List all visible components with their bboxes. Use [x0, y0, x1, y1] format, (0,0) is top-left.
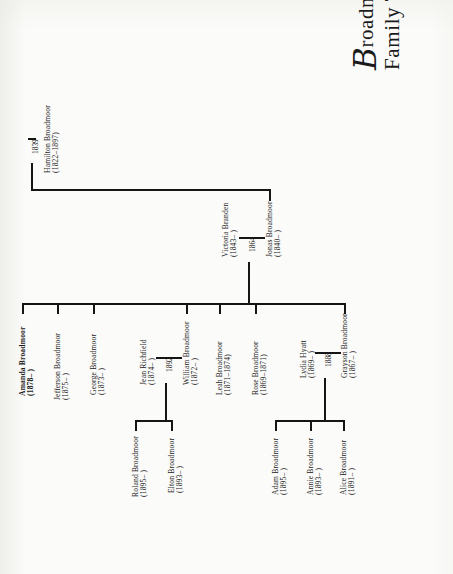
marriage-year-jonas: 1864	[248, 237, 257, 252]
person-dates: (1891– )	[348, 440, 356, 495]
child-tick-adam	[275, 420, 277, 431]
child-bar-hamilton	[31, 189, 271, 191]
person-william-broadmoor: William Broadmoor (1872– )	[183, 321, 198, 385]
descent-line-grayson	[324, 378, 326, 421]
person-jefferson-broadmoor: Jefferson Broadmoor (1875– )	[54, 333, 69, 400]
child-tick-elton	[171, 420, 173, 431]
person-george-broadmoor: George Broadmoor (1873– )	[90, 334, 105, 395]
person-dates: (1895– )	[140, 436, 148, 497]
sibling-bar-william-children	[135, 420, 172, 422]
person-dates: (1878– )	[27, 326, 35, 396]
person-dates: (1867– )	[349, 313, 357, 378]
descent-line-jonas	[248, 262, 250, 304]
person-dates: (1873– )	[98, 334, 106, 395]
person-dates: (1872– )	[191, 321, 199, 385]
marriage-year-grayson: 1888	[324, 352, 333, 367]
person-dates: (1893– )	[176, 438, 184, 493]
title-ornate-initial: B	[347, 47, 383, 70]
child-tick-william	[186, 303, 188, 314]
person-annie-broadmoor: Annie Broadmoor (1893– )	[307, 438, 322, 495]
page-title: Broadmoor Family Tree	[352, 0, 405, 70]
child-tick-leah	[219, 303, 221, 314]
child-tick-jefferson	[57, 303, 59, 314]
person-dates: (1875– )	[62, 333, 70, 400]
descent-line-hamilton	[31, 163, 33, 190]
child-tick-roland	[135, 420, 137, 431]
child-tick-jonas	[269, 189, 271, 201]
sibling-bar-generation-2	[22, 303, 345, 305]
person-dates: (1895– )	[280, 438, 288, 495]
marriage-year-hamilton: 1839	[31, 139, 40, 154]
marriage-year-william: 1892	[165, 357, 174, 372]
title-line-1: roadmoor	[354, 0, 378, 48]
person-leah-broadmoor: Leah Broadmoor (1871–1874)	[216, 341, 231, 395]
child-tick-alice	[343, 420, 345, 431]
person-dates: (1869–1871)	[260, 341, 268, 395]
person-alice-broadmoor: Alice Broadmoor (1891– )	[340, 440, 355, 495]
family-tree-page: Broadmoor Family Tree Hamilton Broadmoor…	[0, 0, 453, 574]
child-tick-annie	[310, 420, 312, 431]
person-dates: (1869– )	[308, 340, 316, 378]
child-tick-george	[93, 303, 95, 314]
person-dates: (1843– )	[230, 203, 238, 257]
person-hamilton-broadmoor: Hamilton Broadmoor (1822–1897)	[44, 105, 59, 173]
person-adam-broadmoor: Adam Broadmoor (1895– )	[272, 438, 287, 495]
person-grayson-broadmoor: Grayson Broadmoor (1867– )	[341, 313, 356, 378]
person-jonas-broadmoor: Jonas Broadmoor (1840– )	[266, 201, 281, 257]
person-dates: (1822–1897)	[52, 105, 60, 173]
person-victoria-branden: Victoria Branden (1843– )	[222, 203, 237, 257]
child-tick-amanda	[22, 303, 24, 314]
person-roland-broadmoor: Roland Broadmoor (1895– )	[132, 436, 147, 497]
scan-paper-texture	[0, 0, 453, 574]
person-rose-broadmoor: Rose Broadmoor (1869–1871)	[252, 341, 267, 395]
person-elton-broadmoor: Elton Broadmoor (1893– )	[168, 438, 183, 493]
person-lydia-hyatt: Lydia Hyatt (1869– )	[300, 340, 315, 378]
person-amanda-broadmoor: Amanda Broadmoor (1878– )	[19, 326, 34, 396]
title-line-2: Family Tree	[380, 0, 405, 70]
person-dates: (1893– )	[315, 438, 323, 495]
person-dates: (1840– )	[274, 201, 282, 257]
child-tick-rose	[255, 303, 257, 314]
descent-line-william	[165, 383, 167, 421]
person-jean-richfield: Jean Richfield (1874– )	[140, 339, 155, 385]
person-dates: (1871–1874)	[224, 341, 232, 395]
person-dates: (1874– )	[148, 339, 156, 385]
